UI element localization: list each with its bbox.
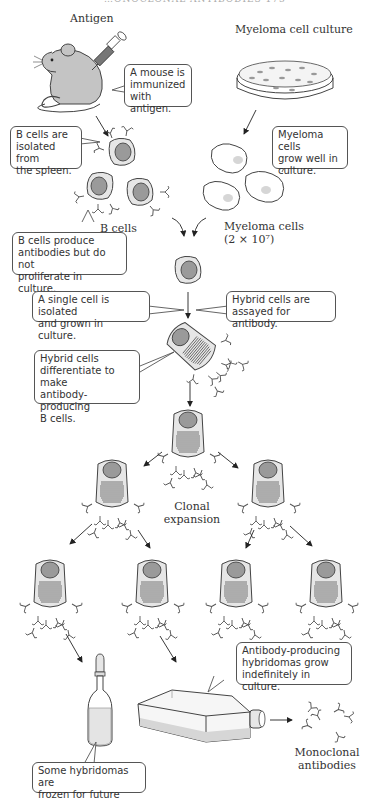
clonal-expansion-label: Clonal expansion bbox=[162, 500, 222, 526]
callout-hybrid-differentiate: Hybrid cells differentiate to make antib… bbox=[34, 350, 140, 404]
arrow bbox=[194, 218, 206, 236]
callout-hybridomas-grow: Antibody-producing hybridomas grow indef… bbox=[236, 642, 352, 685]
arrow bbox=[244, 110, 256, 134]
petri-dish-icon bbox=[237, 61, 333, 99]
callout-frozen: Some hybridomas are frozen for future us… bbox=[32, 762, 146, 793]
callout-b-cells-produce: B cells produce antibodies but do not pr… bbox=[12, 232, 127, 275]
callout-single-cell: A single cell is isolated and grown in c… bbox=[32, 291, 150, 322]
culture-flask-icon bbox=[138, 690, 265, 742]
arrow bbox=[172, 218, 184, 236]
callout-b-cells-isolated: B cells are isolated from the spleen. bbox=[10, 126, 82, 169]
arrow bbox=[96, 116, 108, 136]
mouse-illustration bbox=[33, 44, 102, 112]
syringe-icon bbox=[92, 30, 128, 70]
monoclonal-antibodies-label: Monoclonal antibodies bbox=[292, 746, 362, 772]
frozen-vial-icon bbox=[88, 654, 112, 746]
antigen-label: Antigen bbox=[70, 12, 114, 25]
callout-mouse-immunized: A mouse is immunized with antigen. bbox=[124, 64, 192, 107]
callout-hybrid-assayed: Hybrid cells are assayed for antibody. bbox=[226, 291, 336, 322]
hybrid-cell bbox=[175, 256, 201, 283]
myeloma-cells-label: Myeloma cells (2 × 10⁷) bbox=[224, 220, 304, 246]
monoclonal-antibodies-icon bbox=[301, 701, 354, 743]
callout-myeloma-grow: Myeloma cells grow well in culture. bbox=[272, 126, 348, 169]
myeloma-culture-label: Myeloma cell culture bbox=[235, 23, 353, 36]
